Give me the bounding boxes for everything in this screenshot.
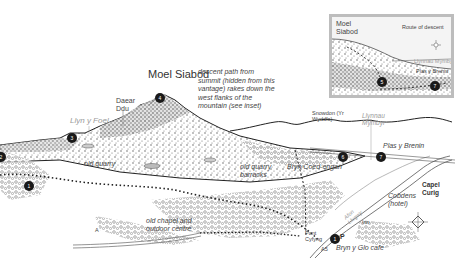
- label-parking: P: [340, 233, 345, 241]
- label-inn: Inn: [362, 219, 370, 225]
- marker-bryn-coed-engan[interactable]: 6: [338, 152, 348, 162]
- label-old-quarry-barracks: old quarry barracks: [240, 163, 276, 179]
- label-snowdon: Snowdon (Yr Wyddfa): [312, 110, 346, 122]
- inset-marker-5[interactable]: 5: [377, 77, 387, 87]
- label-moel-siabod: Moel Siabod: [148, 68, 184, 80]
- inset-place-label: Plas y Brenin: [416, 68, 448, 74]
- label-road-a5: A5: [321, 246, 328, 252]
- marker-plas-y-brenin[interactable]: 7: [376, 152, 386, 162]
- label-daear-ddu: Daear Ddu: [116, 97, 136, 113]
- inset-lake-label: Llynnau Mymbyr: [414, 58, 454, 64]
- marker-pont-cyfyng[interactable]: 1: [330, 234, 340, 244]
- label-bryn-y-glo-cafe: Bryn y Glo cafe: [336, 244, 384, 252]
- label-old-quarry: old quarry: [84, 160, 115, 168]
- label-plas-y-brenin: Plas y Brenin: [383, 142, 424, 150]
- marker-llyn-y-foel[interactable]: 3: [67, 133, 77, 143]
- label-pont-cyfyng: Pont Cyfyng: [305, 230, 327, 242]
- marker-summit[interactable]: 4: [155, 93, 165, 103]
- label-cobdens-hotel: Cobdens (hotel): [388, 192, 418, 208]
- marker-west-lower[interactable]: 1: [24, 181, 34, 191]
- inset-caption: Route of descent: [402, 23, 444, 31]
- label-road-a: A: [95, 227, 99, 233]
- inset-marker-7[interactable]: 7: [430, 81, 440, 91]
- label-llyn-y-foel: Llyn y Foel: [70, 117, 109, 125]
- label-old-chapel: old chapel and outdoor centre: [146, 217, 216, 233]
- inset-title: Moel Siabod: [336, 20, 360, 36]
- label-llynnau-mymbyr: Llynnau Mymbyr: [362, 112, 392, 126]
- inset-map: Moel Siabod Route of descent Llynnau Mym…: [329, 14, 454, 98]
- label-capel-curig: Capel Curig: [422, 181, 450, 197]
- label-bryn-coed-engan: Bryn Coed-engan: [287, 163, 342, 171]
- descent-note: descent path from summit (hidden from th…: [198, 68, 278, 111]
